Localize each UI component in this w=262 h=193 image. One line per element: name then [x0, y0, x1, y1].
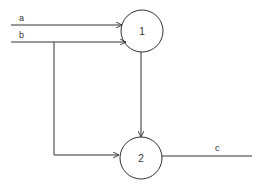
node-1: 1 [121, 10, 163, 52]
edge-c: c [162, 143, 252, 156]
flow-diagram: a b c 1 2 [0, 0, 262, 193]
edge-b-branch [54, 42, 119, 155]
edge-b: b [11, 30, 126, 42]
edge-a-label: a [19, 13, 24, 23]
node-2: 2 [120, 137, 162, 179]
node-2-label: 2 [138, 153, 144, 164]
edge-b-label: b [19, 30, 24, 40]
node-1-label: 1 [139, 26, 145, 37]
edge-a: a [11, 13, 122, 25]
edge-c-label: c [215, 143, 220, 153]
